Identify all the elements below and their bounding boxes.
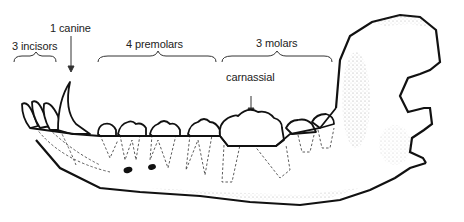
ramus-shading <box>342 52 370 148</box>
jaw-diagram: 3 incisors 1 canine 4 premolars 3 molars… <box>0 0 464 222</box>
premolar-2 <box>118 121 146 136</box>
canine-arrowhead <box>68 66 74 72</box>
canine <box>58 82 90 134</box>
premolars-brace <box>98 51 216 62</box>
premolar-1 <box>98 124 116 136</box>
label-braces <box>14 51 332 62</box>
incisors-brace <box>14 52 56 62</box>
mandible <box>30 15 440 205</box>
label-canine: 1 canine <box>50 22 91 34</box>
label-molars: 3 molars <box>256 37 297 49</box>
molars-brace <box>222 51 332 62</box>
label-carnassial: carnassial <box>226 71 275 83</box>
label-incisors: 3 incisors <box>12 40 57 52</box>
label-premolars: 4 premolars <box>126 38 183 50</box>
